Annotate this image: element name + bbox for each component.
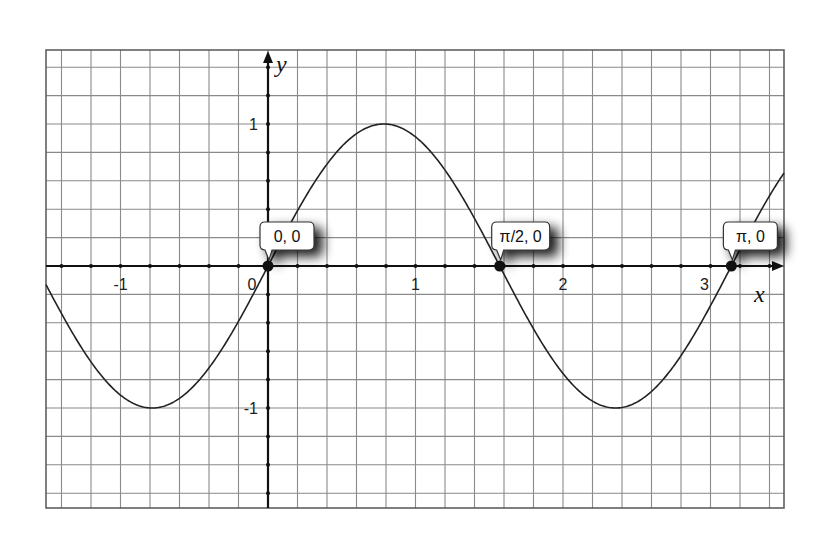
x-tick-label: 1 (411, 276, 420, 293)
sine-chart: -101231-1 x y 0, 0π/2, 0π, 0 (0, 0, 833, 540)
data-point-marker (494, 261, 505, 272)
y-axis-arrow-icon (263, 51, 273, 63)
y-tick-label: 1 (249, 116, 258, 133)
y-tick-label: -1 (244, 400, 258, 417)
point-callout: 0, 0 (260, 222, 314, 272)
x-tick-label: 0 (248, 276, 257, 293)
callout-label: π, 0 (736, 228, 765, 245)
data-point-marker (263, 261, 274, 272)
x-tick-label: -1 (113, 276, 127, 293)
data-point-marker (726, 261, 737, 272)
x-tick-label: 3 (700, 276, 709, 293)
x-tick-label: 2 (559, 276, 568, 293)
point-callout: π/2, 0 (492, 222, 550, 272)
point-callouts: 0, 0π/2, 0π, 0 (260, 222, 777, 272)
callout-label: 0, 0 (274, 228, 301, 245)
y-axis-label: y (274, 51, 287, 77)
callout-label: π/2, 0 (500, 228, 542, 245)
x-axis-label: x (753, 281, 765, 307)
x-axis-arrow-icon (772, 261, 784, 271)
